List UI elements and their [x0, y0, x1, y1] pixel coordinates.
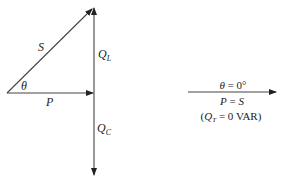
- ql-label: QL: [98, 48, 111, 65]
- s-vector: [7, 9, 92, 93]
- qc-label: QC: [97, 122, 111, 139]
- theta-equation: θ = 0°: [183, 79, 283, 91]
- qt-equation: (QT = 0 VAR): [181, 110, 281, 126]
- theta-label: θ: [21, 80, 27, 92]
- p-label: P: [46, 96, 53, 108]
- s-label: S: [38, 41, 44, 53]
- p-equals-s-equation: P = S: [182, 95, 282, 107]
